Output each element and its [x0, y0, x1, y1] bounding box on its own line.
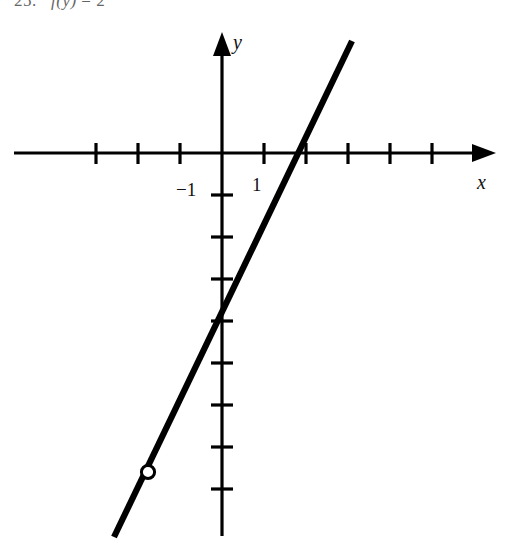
- x-axis-label: x: [477, 172, 486, 192]
- x-tick-label-negative-one: −1: [176, 180, 196, 199]
- y-axis-label: y: [233, 32, 242, 52]
- graph-figure: 25. f(y) = 2: [0, 0, 507, 541]
- axes-group: [14, 32, 496, 536]
- x-axis-arrowhead: [472, 144, 496, 162]
- plotted-line-group: [114, 41, 352, 537]
- coordinate-plane: [0, 0, 507, 541]
- line-y-equals-2x-minus-4: [114, 41, 352, 537]
- y-axis-arrowhead: [213, 32, 231, 56]
- open-circle-marker: [141, 465, 154, 478]
- x-tick-label-one: 1: [252, 175, 262, 194]
